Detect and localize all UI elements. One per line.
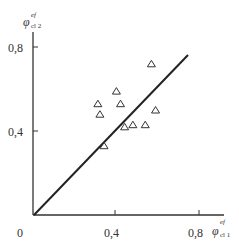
svg-text:ef: ef: [31, 11, 37, 19]
scatter-chart: 0,8 0,4 0 0,4 0,8 φ ef cl 2 φ ef cl 1: [0, 0, 239, 244]
y-axis-label: φ ef cl 2: [23, 11, 42, 30]
data-points: [94, 60, 160, 148]
reference-line: [34, 55, 188, 215]
triangle-marker: [112, 88, 120, 95]
svg-text:φ: φ: [23, 15, 30, 29]
svg-text:φ: φ: [212, 224, 219, 238]
triangle-marker: [141, 121, 149, 128]
y-tick-label-08: 0,8: [8, 41, 23, 55]
svg-text:cl 2: cl 2: [31, 22, 42, 30]
x-tick-label-08: 0,8: [188, 226, 203, 240]
svg-text:ef: ef: [220, 218, 226, 226]
triangle-marker: [94, 100, 102, 107]
triangle-marker: [96, 111, 104, 118]
triangle-marker: [129, 121, 137, 128]
x-tick-label-04: 0,4: [104, 226, 119, 240]
triangle-marker: [152, 107, 160, 114]
triangle-marker: [117, 100, 125, 107]
x-axis-label: φ ef cl 1: [212, 218, 231, 239]
triangle-marker: [147, 60, 155, 67]
y-tick-label-04: 0,4: [8, 125, 23, 139]
origin-label: 0: [17, 226, 23, 240]
svg-text:cl 1: cl 1: [220, 231, 231, 239]
